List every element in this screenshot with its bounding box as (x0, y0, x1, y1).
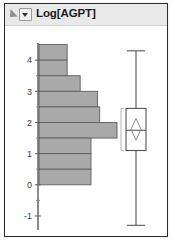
plot-area: 43210-1 (5, 26, 167, 236)
histogram-bar (39, 107, 100, 123)
chevron-down-glyph (22, 13, 28, 17)
box-plot (121, 51, 146, 226)
panel-titlebar[interactable]: Log[AGPT] (5, 4, 167, 26)
disclosure-triangle-icon[interactable] (6, 9, 17, 20)
histogram-bar (39, 122, 117, 138)
histogram-bar (39, 169, 91, 185)
axis-tick-label: 2 (27, 118, 32, 128)
histogram-bar (39, 45, 67, 61)
histogram-bar (39, 76, 80, 92)
histogram-panel: Log[AGPT] 43210-1 (4, 3, 168, 237)
histogram-chart: 43210-1 (5, 26, 167, 236)
axis-tick-label: -1 (24, 211, 32, 221)
histogram-bar (39, 138, 91, 154)
axis-tick-label: 1 (27, 149, 32, 159)
histogram-bar (39, 91, 98, 107)
histogram-bars (39, 45, 117, 185)
page-title: Log[AGPT] (36, 7, 96, 19)
axis-tick-label: 0 (27, 180, 32, 190)
axis-tick-label: 4 (27, 55, 32, 65)
chevron-down-icon[interactable] (19, 8, 32, 21)
histogram-bar (39, 154, 91, 170)
axis-tick-label: 3 (27, 87, 32, 97)
histogram-bar (39, 60, 67, 76)
